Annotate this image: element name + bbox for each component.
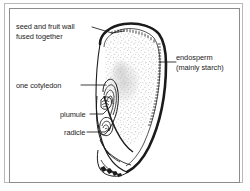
- label-one-cotyledon-line1: one cotyledon: [16, 81, 61, 91]
- label-seed-and-fruit-wall-line1: seed and fruit wall: [16, 22, 75, 32]
- label-radicle-line1: radicle: [64, 128, 85, 138]
- label-plumule-line1: plumule: [60, 110, 86, 120]
- label-plumule: plumule: [60, 110, 86, 120]
- label-seed-and-fruit-wall: seed and fruit wall fused together: [16, 22, 75, 41]
- label-radicle: radicle: [64, 128, 85, 138]
- seed-diagram-figure: seed and fruit wall fused together one c…: [0, 0, 250, 191]
- label-one-cotyledon: one cotyledon: [16, 81, 61, 91]
- label-seed-and-fruit-wall-line2: fused together: [16, 32, 75, 42]
- label-endosperm-line2: (mainly starch): [176, 63, 224, 73]
- label-endosperm-line1: endosperm: [176, 53, 224, 63]
- label-endosperm: endosperm (mainly starch): [176, 53, 224, 72]
